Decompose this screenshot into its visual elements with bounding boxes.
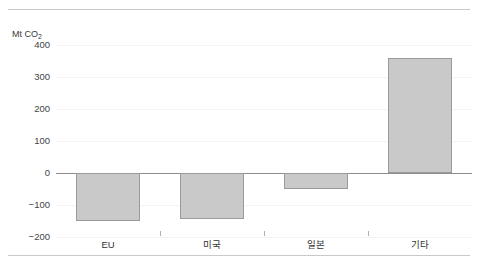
gridline: [56, 45, 472, 46]
x-axis-tick-mark: [264, 231, 265, 236]
y-axis-tick-label: −200: [29, 232, 50, 242]
y-axis-tick-label: 200: [34, 104, 50, 114]
y-axis-title-text: Mt CO: [12, 29, 38, 39]
x-axis-tick-label: EU: [101, 240, 114, 250]
x-axis-tick-mark: [368, 231, 369, 236]
y-axis-tick-label: 300: [34, 72, 50, 82]
bar-EU: [76, 173, 139, 221]
x-axis-tick-label: 미국: [203, 240, 221, 250]
gridline: [56, 237, 472, 238]
x-axis-tick-mark: [160, 231, 161, 236]
y-axis-tick-label: 100: [34, 136, 50, 146]
chart-figure: Mt CO2 4003002001000−100−200 EU미국일본기타: [0, 0, 478, 264]
y-axis-tick-label: 400: [34, 40, 50, 50]
bar-일본: [284, 173, 347, 189]
y-axis-tick-label: 0: [45, 168, 50, 178]
bar-기타: [388, 58, 451, 173]
bar-미국: [180, 173, 243, 219]
y-axis-title: Mt CO2: [12, 30, 42, 39]
figure-top-rule: [8, 9, 470, 10]
figure-bottom-rule: [8, 255, 470, 256]
x-axis-tick-label: 기타: [411, 240, 429, 250]
x-axis-tick-label: 일본: [307, 240, 325, 250]
plot-area: 4003002001000−100−200 EU미국일본기타: [56, 45, 472, 237]
y-axis-tick-label: −100: [29, 200, 50, 210]
